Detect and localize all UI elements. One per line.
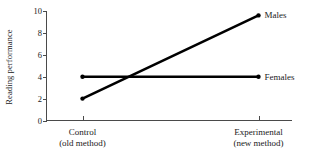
series-label-males: Males xyxy=(265,10,287,20)
x-tick-label-line1: Control xyxy=(69,127,97,137)
series-label-females: Females xyxy=(265,72,295,82)
x-tick-label: Control(old method) xyxy=(59,127,106,149)
x-tick-label-line2: (old method) xyxy=(59,138,106,149)
y-tick-label: 4 xyxy=(20,72,42,81)
y-tick-label: 2 xyxy=(20,94,42,103)
series-line-males xyxy=(83,15,259,98)
data-series-group xyxy=(80,13,260,101)
x-tick-marks xyxy=(84,116,260,121)
axes-group xyxy=(47,11,293,121)
x-tick-label-line2: (new method) xyxy=(233,138,283,149)
y-tick-label: 0 xyxy=(20,116,42,125)
data-point-marker xyxy=(80,75,84,79)
y-tick-marks xyxy=(43,12,47,122)
data-point-marker xyxy=(256,13,260,17)
x-tick-label-line1: Experimental xyxy=(234,127,282,137)
y-tick-label: 8 xyxy=(20,28,42,37)
interaction-line-chart: 0246810 Control(old method)Experimental(… xyxy=(0,0,312,162)
x-tick-label: Experimental(new method) xyxy=(233,127,283,149)
y-tick-label: 6 xyxy=(20,50,42,59)
y-tick-label: 10 xyxy=(20,7,42,16)
y-axis-title: Reading performance xyxy=(2,2,16,132)
data-point-marker xyxy=(256,75,260,79)
data-point-marker xyxy=(80,96,84,100)
